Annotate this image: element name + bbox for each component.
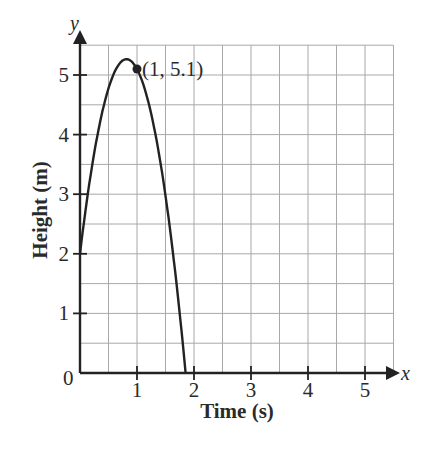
x-axis-variable: x xyxy=(400,362,410,384)
y-tick-labels: 12345 xyxy=(59,63,70,325)
y-tick-label: 5 xyxy=(59,63,70,87)
point-label: (1, 5.1) xyxy=(142,57,203,81)
x-tick-label: 4 xyxy=(303,378,314,402)
grid xyxy=(80,45,394,373)
axes xyxy=(73,30,400,380)
x-tick-label: 2 xyxy=(189,378,200,402)
x-tick-label: 5 xyxy=(360,378,371,402)
y-axis-variable: y xyxy=(68,12,79,35)
x-tick-label: 1 xyxy=(132,378,143,402)
height-curve xyxy=(80,59,186,373)
height-time-chart: (1, 5.1) 12345 12345 0 x y Time (s) Heig… xyxy=(0,0,440,468)
y-tick-label: 3 xyxy=(59,182,70,206)
origin-label: 0 xyxy=(63,366,74,390)
y-axis-title: Height (m) xyxy=(28,161,52,258)
y-tick-label: 1 xyxy=(59,301,70,325)
annotated-point xyxy=(133,65,142,74)
y-tick-label: 4 xyxy=(59,123,70,147)
x-axis-title: Time (s) xyxy=(200,399,274,423)
y-tick-label: 2 xyxy=(59,242,70,266)
